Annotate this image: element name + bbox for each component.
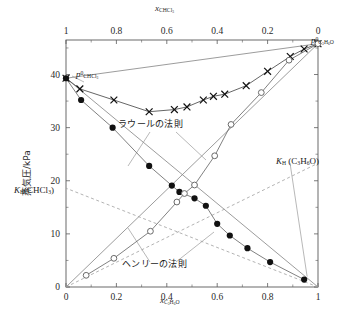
top-axis-tick-label: 0.2	[262, 26, 274, 36]
annotation-leader-line	[128, 132, 150, 166]
bottom-axis-tick-label: 1	[316, 292, 321, 302]
bottom-axis-tick-label: 0.8	[262, 292, 274, 302]
marker-open-circle-partial-pressure-acetone	[286, 57, 292, 63]
label-p0-chcl3: p0CHCl3	[76, 70, 98, 81]
label-p0-acetone: p0C3H6O	[311, 36, 334, 47]
y-axis-tick-label: 10	[51, 229, 61, 239]
annotation-leader-line	[176, 132, 206, 160]
figure-vapour-pressure-diagram: 00.20.40.60.8110.80.60.40.20010203040 xC…	[0, 0, 343, 317]
marker-open-circle-partial-pressure-acetone	[83, 272, 89, 278]
marker-open-circle-partial-pressure-acetone	[228, 122, 234, 128]
marker-filled-circle-partial-pressure-chloroform	[169, 182, 175, 188]
top-axis-subscript: CHCl3	[159, 7, 174, 13]
top-axis-tick-label: 0.6	[161, 26, 173, 36]
annotation-raoult: ラウールの法則	[118, 120, 183, 129]
marker-open-circle-partial-pressure-acetone	[174, 199, 180, 205]
annotation-henry: ヘンリーの法則	[122, 260, 187, 269]
series-line-total-pressure	[66, 44, 318, 112]
bottom-axis-tick-label: 0.2	[110, 292, 122, 302]
top-axis-tick-label: 0	[316, 26, 321, 36]
bottom-axis-subscript: C3H6O	[164, 299, 180, 305]
raoult-line-raoult-chcl3	[66, 78, 318, 287]
bottom-axis-title: xC3H6O	[160, 296, 180, 307]
raoult-line-raoult-total	[66, 44, 318, 79]
marker-filled-circle-partial-pressure-chloroform	[146, 163, 152, 169]
bottom-axis-tick-label: 0	[64, 292, 69, 302]
label-kh-acetone: KH (C3H6O)	[276, 157, 319, 167]
marker-filled-circle-partial-pressure-chloroform	[227, 232, 233, 238]
marker-filled-circle-partial-pressure-chloroform	[203, 203, 209, 209]
marker-filled-circle-partial-pressure-chloroform	[244, 245, 250, 251]
marker-filled-circle-partial-pressure-chloroform	[214, 221, 220, 227]
y-axis-tick-label: 30	[51, 123, 61, 133]
top-axis-tick-label: 1	[64, 26, 69, 36]
marker-filled-circle-partial-pressure-chloroform	[63, 75, 69, 81]
marker-filled-circle-partial-pressure-chloroform	[78, 97, 84, 103]
marker-filled-circle-partial-pressure-chloroform	[267, 259, 273, 265]
henry-line-henry-acetone	[66, 163, 318, 287]
marker-filled-circle-partial-pressure-chloroform	[110, 125, 116, 131]
marker-open-circle-partial-pressure-acetone	[258, 90, 264, 96]
y-axis-tick-label: 0	[55, 282, 60, 292]
marker-open-circle-partial-pressure-acetone	[192, 182, 198, 188]
kh-acetone-leader	[290, 163, 307, 277]
marker-open-circle-partial-pressure-acetone	[212, 153, 218, 159]
bottom-axis-tick-label: 0.6	[211, 292, 223, 302]
marker-filled-circle-partial-pressure-chloroform	[191, 195, 197, 201]
marker-open-circle-partial-pressure-acetone	[182, 191, 188, 197]
marker-open-circle-partial-pressure-acetone	[111, 255, 117, 261]
y-axis-tick-label: 40	[51, 70, 61, 80]
annotation-leader-line	[176, 232, 214, 262]
top-axis-tick-label: 0.8	[110, 26, 122, 36]
label-kh-chcl3: KH(CHCl3)	[14, 186, 54, 196]
marker-open-circle-partial-pressure-acetone	[148, 228, 154, 234]
henry-line-henry-chcl3	[66, 188, 318, 287]
top-axis-title: xCHCl3	[155, 4, 174, 15]
marker-filled-circle-partial-pressure-chloroform	[301, 276, 307, 282]
top-axis-tick-label: 0.4	[211, 26, 223, 36]
